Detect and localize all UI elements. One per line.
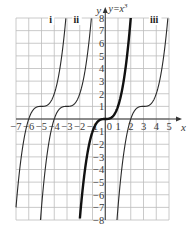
y-tick-label: 6 — [99, 38, 104, 49]
x-tick-label: −6 — [23, 121, 34, 132]
y-tick-label: −5 — [93, 177, 104, 188]
equation-label: y=x3 — [107, 2, 128, 14]
y-tick-label: 7 — [99, 25, 104, 36]
x-tick-label: 1 — [115, 121, 120, 132]
x-tick-label: 5 — [166, 121, 171, 132]
y-tick-label: 8 — [99, 13, 104, 24]
y-tick-label: −8 — [93, 215, 104, 226]
y-tick-label: 5 — [99, 51, 104, 62]
x-tick-label: −5 — [36, 121, 47, 132]
x-tick-label: −3 — [61, 121, 72, 132]
x-tick-label: −7 — [10, 121, 21, 132]
x-tick-label: −4 — [49, 121, 61, 132]
curve-label-i: i — [49, 14, 52, 25]
x-axis-label: x — [180, 121, 186, 133]
y-tick-label: 3 — [99, 76, 104, 87]
y-tick-label: −6 — [93, 190, 104, 201]
y-tick-label: −4 — [93, 164, 105, 175]
y-tick-label: 2 — [99, 89, 104, 100]
y-tick-label: 4 — [99, 63, 105, 74]
y-tick-label: −7 — [93, 202, 104, 213]
x-tick-label: −2 — [74, 121, 85, 132]
y-tick-label: −2 — [93, 139, 104, 150]
x-tick-label: 4 — [154, 121, 160, 132]
x-tick-label: 0 — [107, 121, 112, 132]
curve-i — [16, 18, 66, 207]
y-tick-label: 1 — [99, 101, 104, 112]
curve-label-ii: ii — [73, 14, 79, 25]
cubic-transformations-chart: x y −7−6−5−4−3−2−101234587654321−1−2−3−4… — [0, 0, 191, 227]
y-tick-label: −3 — [93, 152, 104, 163]
x-tick-label: 3 — [141, 121, 146, 132]
curve-label-iii: iii — [150, 14, 159, 25]
